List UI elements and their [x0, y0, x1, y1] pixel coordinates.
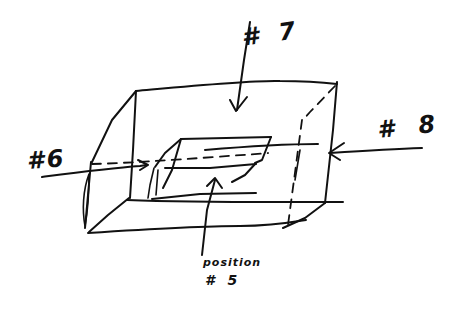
label-position-6: #6	[26, 144, 67, 175]
sketch-canvas	[0, 0, 461, 318]
arrow-position-8	[329, 143, 422, 160]
label-position-5-line1: position	[203, 256, 261, 269]
outer-box	[83, 81, 343, 233]
arrow-position-5	[202, 178, 222, 255]
label-position-5-line2: # 5	[205, 272, 241, 288]
